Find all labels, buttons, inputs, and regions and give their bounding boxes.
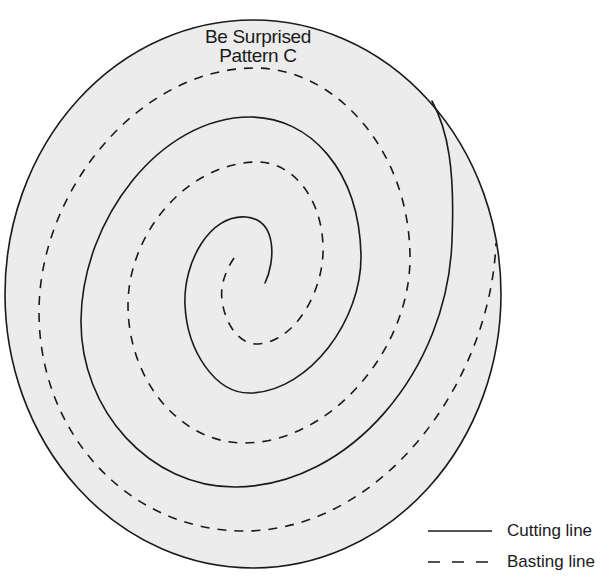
title-line-2: Pattern C (180, 46, 336, 65)
pattern-diagram (0, 0, 616, 577)
legend-label-cutting: Cutting line (507, 522, 592, 540)
legend-label-basting: Basting line (507, 553, 595, 571)
title-line-1: Be Surprised (180, 27, 336, 46)
